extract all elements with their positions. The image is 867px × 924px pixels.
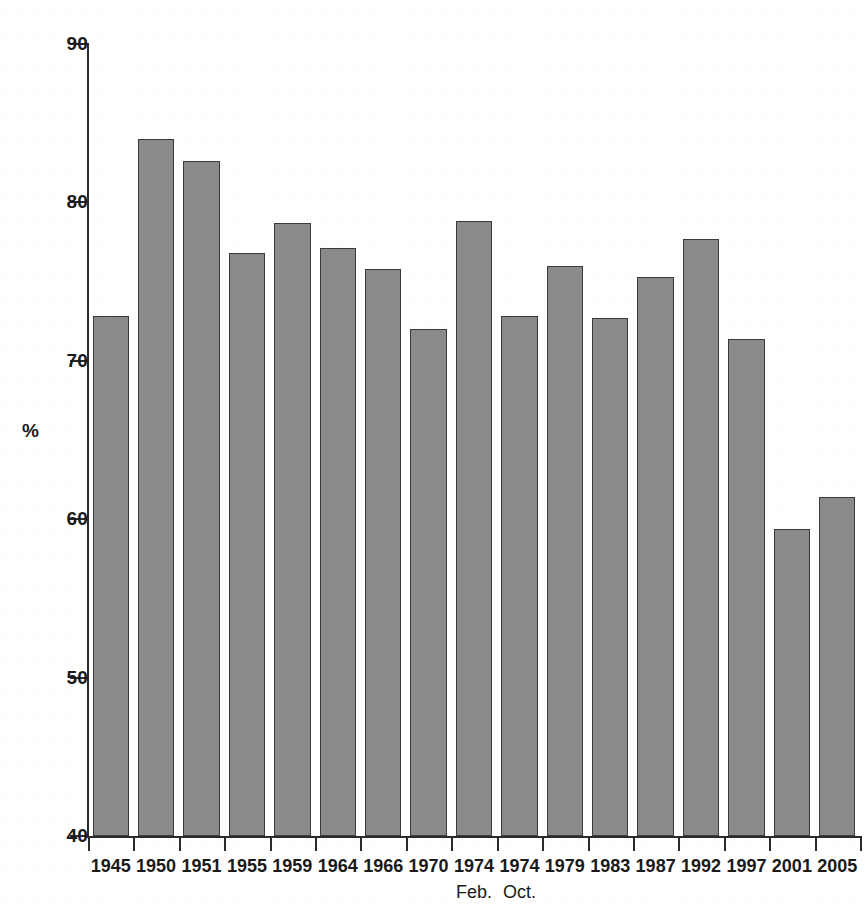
x-axis-tick (406, 838, 408, 851)
x-axis-tick (497, 838, 499, 851)
x-axis-tick (360, 838, 362, 851)
x-axis-tick (769, 838, 771, 851)
y-axis-tick-label: 40 (24, 825, 88, 847)
x-axis-tick (815, 838, 817, 851)
x-axis-tick-label: 1970 (406, 856, 451, 877)
x-axis-tick (633, 838, 635, 851)
x-axis-sublabel: Feb. (451, 882, 496, 903)
x-axis-sublabel: Oct. (497, 882, 542, 903)
bar (774, 529, 810, 836)
election-turnout-bar-chart: 405060708090 % 1945195019511955195919641… (0, 0, 867, 924)
y-axis-tick-label: 50 (24, 667, 88, 689)
x-axis-tick-label: 1966 (360, 856, 405, 877)
bar (410, 329, 446, 836)
x-axis-tick (315, 838, 317, 851)
bar (274, 223, 310, 836)
x-axis-tick (224, 838, 226, 851)
bar (683, 239, 719, 836)
y-axis-tick-label: 60 (24, 508, 88, 530)
bar (365, 269, 401, 836)
x-axis-tick-label: 2001 (769, 856, 814, 877)
x-axis-tick-label: 1951 (179, 856, 224, 877)
x-axis-tick-label: 1974 (451, 856, 496, 877)
x-axis-tick-label: 1950 (133, 856, 178, 877)
bar (229, 253, 265, 836)
x-axis-tick-label: 1997 (724, 856, 769, 877)
x-axis-tick (270, 838, 272, 851)
bar (637, 277, 673, 836)
y-axis-tick-label: 70 (24, 350, 88, 372)
x-axis-tick-label: 1987 (633, 856, 678, 877)
x-axis-tick-label: 1992 (678, 856, 723, 877)
y-axis-tick-label: 90 (24, 33, 88, 55)
bar (547, 266, 583, 836)
bar (93, 316, 129, 836)
bar (183, 161, 219, 836)
x-axis-tick (678, 838, 680, 851)
bar (138, 139, 174, 836)
x-axis-tick (588, 838, 590, 851)
x-axis-tick (860, 838, 862, 851)
y-axis-tick-label: 80 (24, 191, 88, 213)
x-axis-tick (88, 838, 90, 851)
x-axis-line (87, 836, 862, 838)
plot-area (88, 44, 860, 836)
y-axis-title: % (22, 420, 39, 442)
x-axis-tick-label: 1945 (88, 856, 133, 877)
x-axis-tick-label: 1955 (224, 856, 269, 877)
bar (501, 316, 537, 836)
x-axis-tick (133, 838, 135, 851)
bar (819, 497, 855, 836)
x-axis-tick (542, 838, 544, 851)
x-axis-tick (179, 838, 181, 851)
x-axis-tick-label: 1974 (497, 856, 542, 877)
x-axis-tick (724, 838, 726, 851)
x-axis-tick-label: 1983 (588, 856, 633, 877)
bar (592, 318, 628, 836)
bar (456, 221, 492, 836)
x-axis-tick (451, 838, 453, 851)
x-axis-tick-label: 1979 (542, 856, 587, 877)
x-axis-tick-label: 1959 (270, 856, 315, 877)
x-axis-tick-label: 1964 (315, 856, 360, 877)
x-axis-tick-label: 2005 (815, 856, 860, 877)
bar (728, 339, 764, 836)
bar (320, 248, 356, 836)
